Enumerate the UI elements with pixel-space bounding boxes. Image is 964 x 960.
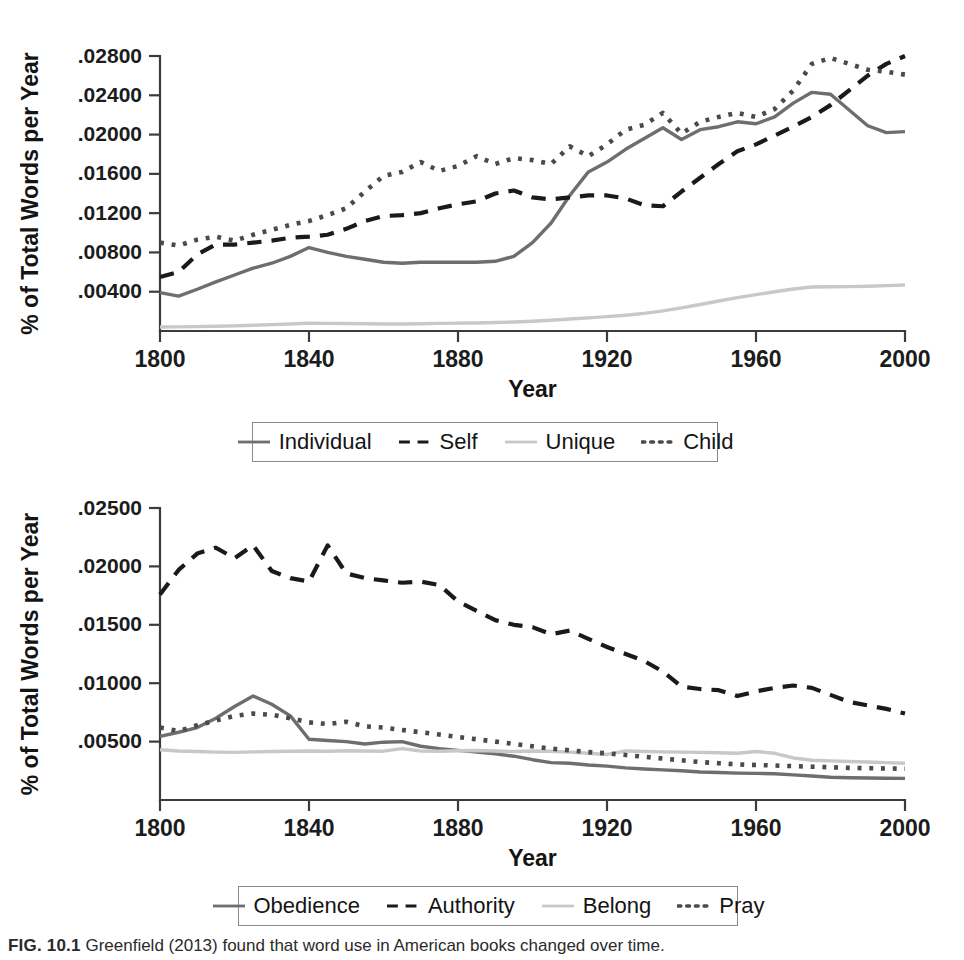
legend-label: Belong xyxy=(583,895,652,917)
y-tick-label: .01000 xyxy=(78,671,142,694)
line-chart-bottom: .00500.01000.01500.02000.025001800184018… xyxy=(0,470,964,935)
legend-entry-obedience[interactable]: Obedience xyxy=(212,895,360,917)
series-line-authority xyxy=(160,545,905,713)
legend-swatch-solid-icon xyxy=(541,899,575,913)
x-tick-label: 1800 xyxy=(134,815,185,841)
legend-label: Pray xyxy=(719,895,764,917)
y-tick-label: .01500 xyxy=(78,612,142,635)
legend-swatch-solid-icon xyxy=(237,435,271,449)
legend-swatch-dashed-icon xyxy=(398,435,432,449)
series-line-obedience xyxy=(160,696,905,778)
y-tick-label: .00800 xyxy=(78,240,142,263)
legend-swatch-solid-icon xyxy=(504,435,538,449)
x-axis-title: Year xyxy=(508,376,557,402)
y-axis-title: % of Total Words per Year xyxy=(17,52,43,335)
x-tick-label: 1920 xyxy=(581,346,632,372)
legend-swatch-dotted-icon xyxy=(677,899,711,913)
y-tick-label: .00400 xyxy=(78,279,142,302)
y-tick-label: .02400 xyxy=(78,83,142,106)
x-tick-label: 1920 xyxy=(581,815,632,841)
legend-top: IndividualSelfUniqueChild xyxy=(252,422,718,462)
series-line-unique xyxy=(160,285,905,327)
legend-entry-unique[interactable]: Unique xyxy=(504,431,616,453)
legend-label: Unique xyxy=(546,431,616,453)
series-line-individual xyxy=(160,92,905,296)
x-tick-label: 1800 xyxy=(134,346,185,372)
y-tick-label: .01600 xyxy=(78,161,142,184)
x-tick-label: 1880 xyxy=(432,346,483,372)
legend-swatch-dotted-icon xyxy=(641,435,675,449)
legend-bottom: ObedienceAuthorityBelongPray xyxy=(238,886,738,926)
legend-entry-child[interactable]: Child xyxy=(641,431,733,453)
legend-label: Individual xyxy=(279,431,372,453)
x-tick-label: 1840 xyxy=(283,815,334,841)
figure-container: .00400.00800.01200.01600.02000.02400.028… xyxy=(0,0,964,960)
x-tick-label: 1880 xyxy=(432,815,483,841)
line-chart-top: .00400.00800.01200.01600.02000.02400.028… xyxy=(0,0,964,470)
x-tick-label: 2000 xyxy=(879,815,930,841)
legend-label: Self xyxy=(440,431,478,453)
legend-entry-pray[interactable]: Pray xyxy=(677,895,764,917)
y-tick-label: .02800 xyxy=(78,44,142,67)
legend-swatch-dashed-icon xyxy=(386,899,420,913)
x-axis-title: Year xyxy=(508,845,557,871)
y-tick-label: .02000 xyxy=(78,554,142,577)
y-tick-label: .00500 xyxy=(78,729,142,752)
legend-label: Authority xyxy=(428,895,515,917)
series-line-child xyxy=(160,58,905,246)
legend-entry-authority[interactable]: Authority xyxy=(386,895,515,917)
chart-panel-top: .00400.00800.01200.01600.02000.02400.028… xyxy=(0,0,964,470)
y-axis-title: % of Total Words per Year xyxy=(17,513,43,796)
legend-label: Child xyxy=(683,431,733,453)
x-tick-label: 1960 xyxy=(730,815,781,841)
chart-panel-bottom: .00500.01000.01500.02000.025001800184018… xyxy=(0,470,964,935)
legend-entry-belong[interactable]: Belong xyxy=(541,895,652,917)
legend-label: Obedience xyxy=(254,895,360,917)
legend-entry-individual[interactable]: Individual xyxy=(237,431,372,453)
x-tick-label: 1840 xyxy=(283,346,334,372)
x-tick-label: 2000 xyxy=(879,346,930,372)
caption-label: FIG. 10.1 xyxy=(8,936,81,955)
legend-entry-self[interactable]: Self xyxy=(398,431,478,453)
y-tick-label: .02000 xyxy=(78,122,142,145)
figure-caption: FIG. 10.1 Greenfield (2013) found that w… xyxy=(8,936,958,956)
y-tick-label: .01200 xyxy=(78,201,142,224)
x-tick-label: 1960 xyxy=(730,346,781,372)
legend-swatch-solid-icon xyxy=(212,899,246,913)
caption-text: Greenfield (2013) found that word use in… xyxy=(85,936,664,955)
y-tick-label: .02500 xyxy=(78,496,142,519)
